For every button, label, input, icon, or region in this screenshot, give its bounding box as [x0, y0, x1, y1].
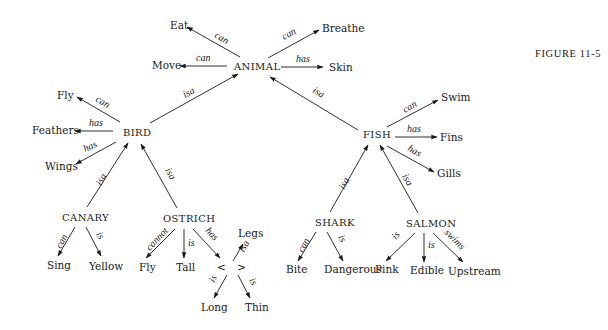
- edge-animal-eat: [187, 27, 240, 57]
- edge-fish-animal: [270, 77, 358, 130]
- node-animal: ANIMAL: [233, 61, 280, 72]
- rel-salmon-upstream: swims: [443, 227, 468, 252]
- node-thin: Thin: [245, 301, 269, 313]
- rel-animal-move: can: [196, 52, 210, 63]
- node-bird-fly: Fly: [57, 89, 74, 101]
- semantic-network-diagram: FIGURE 11-5: [0, 0, 608, 330]
- node-long: Long: [201, 301, 228, 313]
- node-tall: Tall: [176, 261, 196, 273]
- node-canary: CANARY: [62, 212, 109, 223]
- node-yellow: Yellow: [88, 260, 123, 272]
- node-legs: Legs: [238, 227, 263, 239]
- rel-shark-bite: can: [295, 236, 311, 254]
- edge-canary-bird: [87, 143, 128, 207]
- node-dangerous: Dangerous: [324, 263, 382, 275]
- edge-bird-animal: [150, 74, 238, 123]
- rel-shark-dangerous: is: [336, 233, 349, 244]
- rel-legs-thin: is: [247, 276, 260, 287]
- node-feathers: Feathers: [32, 124, 79, 136]
- node-swim: Swim: [441, 91, 471, 103]
- rel-ostrich-has: has: [204, 225, 222, 243]
- node-gills: Gills: [437, 167, 461, 179]
- figure-label: FIGURE 11-5: [535, 48, 601, 59]
- edge-legs-thin: [238, 275, 250, 298]
- node-bite: Bite: [286, 263, 308, 275]
- node-legs-right: >: [237, 261, 246, 273]
- rel-ostrich-tall: is: [188, 237, 195, 248]
- node-bird: BIRD: [123, 127, 151, 138]
- rel-bird-feathers: has: [89, 117, 103, 128]
- node-shark: SHARK: [315, 217, 355, 228]
- edge-canary-yellow: [86, 227, 101, 256]
- rel-salmon-edible: is: [428, 239, 435, 250]
- rel-fish-isa-animal: isa: [311, 84, 327, 99]
- node-ostrich: OSTRICH: [163, 213, 215, 224]
- node-salmon: SALMON: [406, 218, 456, 229]
- nodes: ANIMAL Eat Breathe Move Skin BIRD Fly Fe…: [32, 19, 501, 313]
- node-breathe: Breathe: [322, 22, 364, 34]
- node-eat: Eat: [170, 19, 189, 31]
- node-fish: FISH: [363, 129, 391, 140]
- rel-canary-yellow: is: [94, 230, 107, 241]
- rel-bird-fly: can: [94, 93, 112, 110]
- rel-animal-breathe: can: [280, 25, 298, 42]
- node-move: Move: [152, 59, 181, 71]
- node-skin: Skin: [329, 61, 353, 73]
- node-sing: Sing: [47, 259, 71, 271]
- rel-ostrich-isa: isa: [163, 166, 178, 181]
- node-upstream: Upstream: [448, 265, 501, 277]
- rel-ostrich-fly: cannot: [143, 225, 170, 253]
- rel-canary-isa: isa: [93, 171, 108, 186]
- rel-salmon-pink: is: [389, 229, 402, 241]
- rel-bird-isa-animal: isa: [181, 85, 196, 100]
- rel-fish-fins: has: [407, 123, 421, 134]
- edge-shark-fish: [330, 145, 368, 212]
- node-fins: Fins: [440, 131, 463, 143]
- node-ostrich-fly: Fly: [139, 261, 156, 273]
- rel-bird-wings: has: [81, 138, 98, 154]
- rel-canary-sing: can: [53, 232, 69, 250]
- node-legs-left: <: [217, 261, 226, 273]
- node-wings: Wings: [45, 160, 78, 172]
- node-pink: Pink: [375, 263, 399, 275]
- rel-legs-long: is: [206, 273, 219, 284]
- node-edible: Edible: [410, 264, 444, 276]
- rel-fish-gills: has: [406, 142, 424, 159]
- rel-animal-skin: has: [296, 53, 310, 64]
